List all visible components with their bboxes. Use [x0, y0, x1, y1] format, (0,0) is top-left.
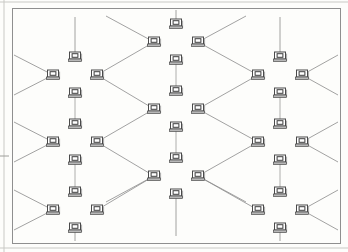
monitor-base: [170, 93, 183, 95]
monitor-screen: [173, 191, 179, 195]
computer-monitor-icon-c-l3-right: [91, 205, 105, 214]
computer-monitor-icon-c-r1-right: [296, 70, 310, 79]
scanned-page: [0, 0, 348, 252]
diagonal-link-c-l2-to-c-m3: [97, 142, 154, 176]
monitor-base: [69, 59, 82, 61]
computer-monitor-icon-c-l1-left: [47, 70, 61, 79]
computer-monitor-icon-c-r2-bottom: [274, 155, 288, 164]
monitor-screen: [195, 39, 201, 43]
diagonal-link-c-m2-to-c-r2: [198, 109, 258, 142]
computer-monitor-icon-c-r3-left: [252, 205, 266, 214]
cluster-middle-1: [148, 19, 206, 64]
cluster-middle-2: [148, 86, 206, 131]
monitor-base: [91, 77, 104, 79]
computer-monitor-icon-c-r2-right: [296, 137, 310, 146]
monitor-screen: [173, 21, 179, 25]
monitor-screen: [94, 207, 100, 211]
monitor-base: [148, 178, 161, 180]
computer-monitor-icon-c-r2-top: [274, 119, 288, 128]
monitor-base: [69, 162, 82, 164]
stub-link-c-m1-left-18: [106, 16, 154, 42]
monitor-base: [252, 144, 265, 146]
monitor-screen: [173, 88, 179, 92]
monitor-screen: [277, 54, 283, 58]
monitor-base: [170, 196, 183, 198]
computer-monitor-icon-c-m3-left: [148, 171, 162, 180]
diagonal-link-c-l3-to-c-m3: [97, 176, 154, 210]
monitor-screen: [277, 157, 283, 161]
monitor-base: [274, 194, 287, 196]
cluster-left-2: [47, 119, 105, 164]
computer-monitor-icon-c-m2-right: [192, 104, 206, 113]
monitor-base: [91, 212, 104, 214]
monitor-screen: [173, 124, 179, 128]
monitor-base: [69, 194, 82, 196]
computer-monitor-icon-c-l3-left: [47, 205, 61, 214]
diagonal-link-c-l2-to-c-m2: [97, 109, 154, 142]
monitor-screen: [255, 72, 261, 76]
diagonal-link-c-m2-to-c-r1: [198, 75, 258, 109]
computer-monitor-icon-c-l3-top: [69, 187, 83, 196]
monitor-base: [192, 178, 205, 180]
monitor-base: [170, 129, 183, 131]
monitor-screen: [72, 157, 78, 161]
monitor-screen: [72, 225, 78, 229]
monitor-screen: [195, 173, 201, 177]
computer-monitor-icon-c-r1-top: [274, 52, 288, 61]
monitor-screen: [72, 121, 78, 125]
computer-monitor-icon-c-r3-bottom: [274, 223, 288, 232]
monitor-screen: [94, 139, 100, 143]
monitor-base: [296, 212, 309, 214]
cluster-right-2: [252, 119, 310, 164]
computer-monitor-icon-c-m1-right: [192, 37, 206, 46]
computer-monitor-icon-c-m3-bottom: [170, 189, 184, 198]
monitor-screen: [277, 189, 283, 193]
computer-monitor-icon-c-l1-top: [69, 52, 83, 61]
monitor-screen: [72, 54, 78, 58]
stub-link-c-m1-right-19: [198, 16, 246, 42]
monitor-base: [170, 26, 183, 28]
computer-monitor-icon-c-l2-right: [91, 137, 105, 146]
computer-monitor-icon-c-l2-left: [47, 137, 61, 146]
diagonal-link-c-m3-to-c-r3: [198, 176, 258, 210]
monitor-screen: [72, 189, 78, 193]
monitor-base: [252, 77, 265, 79]
monitor-screen: [277, 121, 283, 125]
monitor-base: [274, 162, 287, 164]
monitor-screen: [255, 139, 261, 143]
monitor-screen: [151, 106, 157, 110]
diagonal-link-c-m3-to-c-r2: [198, 142, 258, 176]
diagonal-link-c-l1-to-c-m1: [97, 42, 154, 75]
computer-monitor-icon-c-l2-top: [69, 119, 83, 128]
computer-monitor-icon-c-r2-left: [252, 137, 266, 146]
monitor-base: [274, 126, 287, 128]
monitor-base: [47, 77, 60, 79]
network-topology-figure: [0, 0, 348, 252]
monitor-screen: [299, 207, 305, 211]
monitor-base: [148, 111, 161, 113]
monitor-base: [170, 160, 183, 162]
computer-monitor-icon-c-l2-bottom: [69, 155, 83, 164]
monitor-screen: [50, 207, 56, 211]
computer-monitor-icon-c-m2-left: [148, 104, 162, 113]
monitor-screen: [50, 139, 56, 143]
monitor-base: [296, 77, 309, 79]
monitor-base: [47, 144, 60, 146]
monitor-base: [274, 95, 287, 97]
cluster-right-3: [252, 187, 310, 232]
computer-monitor-icon-c-m2-bottom: [170, 122, 184, 131]
computer-monitor-icon-c-m3-top: [170, 153, 184, 162]
diagonal-link-c-m1-to-c-r1: [198, 42, 258, 75]
monitor-screen: [72, 90, 78, 94]
cluster-left-1: [47, 52, 105, 97]
monitor-base: [170, 62, 183, 64]
monitor-screen: [195, 106, 201, 110]
monitor-screen: [151, 173, 157, 177]
computer-monitor-icon-c-r1-left: [252, 70, 266, 79]
monitor-base: [192, 44, 205, 46]
monitor-screen: [255, 207, 261, 211]
monitor-screen: [151, 39, 157, 43]
computer-monitor-icon-c-r3-top: [274, 187, 288, 196]
monitor-screen: [299, 72, 305, 76]
monitor-screen: [50, 72, 56, 76]
